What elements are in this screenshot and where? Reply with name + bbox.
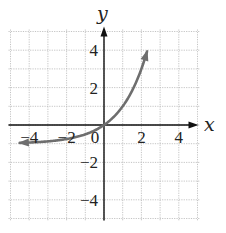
x-tick-label: 0 — [91, 128, 100, 147]
x-tick-label: 4 — [175, 128, 184, 147]
y-axis-label: y — [96, 2, 108, 24]
y-tick-label: −4 — [80, 191, 99, 210]
x-tick-label: −2 — [58, 128, 76, 147]
x-tick-label: −4 — [20, 128, 39, 147]
x-tick-label: 2 — [137, 128, 146, 147]
x-axis-arrow-icon — [189, 122, 199, 129]
function-graph: −4−2024−4−224 x y — [0, 0, 226, 233]
y-tick-label: 2 — [90, 79, 99, 98]
x-axis-label: x — [204, 113, 215, 135]
axes — [9, 27, 199, 221]
exponential-curve — [20, 52, 147, 143]
y-axis-arrow-icon — [101, 27, 108, 37]
y-tick-label: 4 — [90, 41, 99, 60]
y-tick-label: −2 — [80, 153, 98, 172]
